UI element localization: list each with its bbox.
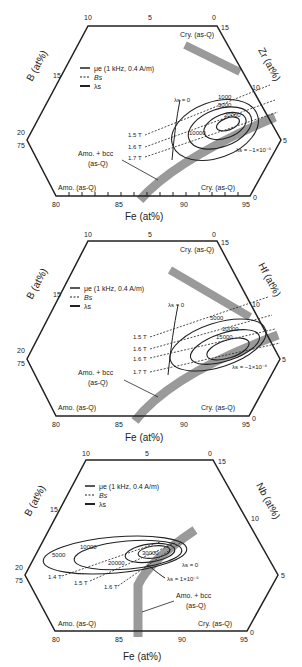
lambda-zero-label: λs = 0 (174, 97, 191, 103)
band-label-line2: (as-Q) (88, 379, 108, 387)
svg-text:1.5 T: 1.5 T (74, 580, 88, 586)
ternary-frame (27, 241, 280, 416)
svg-text:10: 10 (251, 515, 259, 522)
corner-top-label: Cry. (as-Q) (180, 31, 214, 39)
element-axis-title: Zr (at%) (256, 46, 283, 83)
corner-top-label: Cry. (as-Q) (180, 246, 214, 254)
element-axis-title: Hf (at%) (256, 261, 283, 299)
svg-text:15000: 15000 (216, 334, 233, 340)
svg-text:80: 80 (52, 421, 60, 428)
corner-bottom-right-label: Cry. (as-Q) (201, 404, 235, 412)
svg-text:0: 0 (208, 450, 212, 457)
svg-text:75: 75 (17, 360, 25, 367)
band-label-line1: Amo. + bcc (176, 592, 212, 599)
svg-text:1.6 T: 1.6 T (104, 584, 118, 590)
lambda-neg-label: λs = 1×10⁻⁶ (167, 576, 199, 582)
svg-text:95: 95 (242, 421, 250, 428)
panel-fe-b-hf: μe (1 kHz, 0.4 A/m) Bs λs 1.5 T 1.6 T 1.… (0, 225, 302, 445)
bs-labels: 1.4 T 1.5 T 1.6 T (48, 574, 118, 590)
svg-text:5: 5 (283, 137, 287, 144)
svg-text:10: 10 (82, 450, 90, 457)
svg-text:80: 80 (52, 636, 60, 643)
band-label-line1: Amo. + bcc (78, 369, 114, 376)
svg-text:5: 5 (148, 14, 152, 21)
b-axis-title: B (at%) (24, 48, 49, 83)
svg-text:0: 0 (250, 629, 254, 636)
ternary-diagram-nb: μe (1 kHz, 0.4 A/m) Bs λs 1.4 T 1.5 T 1.… (0, 445, 302, 667)
legend: μe (1 kHz, 0.4 A/m) Bs λs (70, 285, 144, 310)
svg-text:20000: 20000 (224, 112, 241, 118)
corner-bottom-right-label: Cry. (as-Q) (198, 620, 232, 628)
svg-text:80: 80 (52, 201, 60, 208)
ternary-diagram-zr: μe (1 kHz, 0.4 A/m) Bs λs 1.5 T 1.6 T 1.… (0, 0, 302, 225)
legend-lambda: λs (94, 83, 102, 90)
legend-lambda: λs (99, 501, 107, 508)
legend: μe (1 kHz, 0.4 A/m) Bs λs (85, 483, 159, 508)
svg-text:1.6 T: 1.6 T (133, 346, 147, 352)
amo-bcc-band (138, 530, 195, 637)
band-pointer (124, 380, 158, 397)
corner-bottom-left-label: Amo. (as-Q) (58, 620, 96, 628)
b-axis-title: B (at%) (22, 483, 47, 518)
svg-text:95: 95 (242, 201, 250, 208)
svg-text:90: 90 (180, 421, 188, 428)
svg-text:20: 20 (15, 564, 23, 571)
svg-text:1000: 1000 (218, 94, 232, 100)
svg-text:5: 5 (148, 231, 152, 238)
svg-text:95: 95 (240, 636, 248, 643)
svg-text:15: 15 (218, 458, 226, 465)
svg-text:1.5 T: 1.5 T (133, 334, 147, 340)
svg-text:75: 75 (15, 577, 23, 584)
corner-bottom-left-label: Amo. (as-Q) (58, 184, 96, 192)
lambda-zero-label: λs = 0 (168, 302, 185, 308)
svg-text:10000: 10000 (222, 326, 239, 332)
svg-text:1.6 T: 1.6 T (128, 144, 142, 150)
svg-text:10000: 10000 (189, 130, 206, 136)
band-label-line2: (as-Q) (186, 602, 206, 610)
svg-text:5: 5 (282, 356, 286, 363)
ternary-diagram-hf: μe (1 kHz, 0.4 A/m) Bs λs 1.5 T 1.6 T 1.… (0, 225, 302, 445)
legend-mu: μe (1 kHz, 0.4 A/m) (99, 483, 159, 491)
legend-bs: Bs (99, 492, 108, 499)
legend-bs: Bs (94, 74, 103, 81)
band-pointer (122, 160, 158, 180)
svg-text:20: 20 (17, 347, 25, 354)
corner-bottom-right-label: Cry. (as-Q) (201, 184, 235, 192)
svg-text:15: 15 (221, 239, 229, 246)
svg-text:10: 10 (252, 84, 260, 91)
svg-text:5000: 5000 (210, 315, 224, 321)
svg-text:20: 20 (17, 129, 25, 136)
band-pointer (142, 601, 174, 612)
lambda-neg-label: λs = −1×10⁻⁶ (232, 364, 268, 370)
svg-text:15: 15 (53, 72, 61, 79)
legend-lambda: λs (84, 303, 92, 310)
svg-text:1.7 T: 1.7 T (133, 369, 147, 375)
svg-text:1.6 T: 1.6 T (133, 356, 147, 362)
svg-text:85: 85 (115, 421, 123, 428)
svg-text:1.7 T: 1.7 T (128, 155, 142, 161)
fe-axis-title: Fe (at%) (125, 211, 163, 222)
svg-text:15: 15 (53, 291, 61, 298)
legend-mu: μe (1 kHz, 0.4 A/m) (84, 285, 144, 293)
band-label-line2: (as-Q) (88, 160, 108, 168)
svg-text:0: 0 (212, 14, 216, 21)
svg-text:10: 10 (84, 231, 92, 238)
lambda-neg-label: λs = −1×10⁻⁶ (236, 147, 272, 153)
bs-labels: 1.5 T 1.6 T 1.6 T 1.7 T (133, 334, 147, 375)
svg-text:1.5 T: 1.5 T (128, 132, 142, 138)
legend: μe (1 kHz, 0.4 A/m) Bs λs (80, 65, 154, 90)
fe-axis-title: Fe (at%) (123, 651, 161, 662)
svg-text:1.4 T: 1.4 T (48, 574, 62, 580)
bs-labels: 1.5 T 1.6 T 1.7 T (128, 132, 142, 161)
svg-text:85: 85 (115, 201, 123, 208)
panel-fe-b-zr: μe (1 kHz, 0.4 A/m) Bs λs 1.5 T 1.6 T 1.… (0, 0, 302, 225)
legend-bs: Bs (84, 294, 93, 301)
svg-text:5: 5 (145, 450, 149, 457)
svg-text:5: 5 (281, 572, 285, 579)
svg-text:90: 90 (180, 201, 188, 208)
svg-text:10: 10 (252, 301, 260, 308)
svg-text:5000: 5000 (52, 552, 66, 558)
svg-text:0: 0 (253, 194, 257, 201)
svg-text:0: 0 (212, 231, 216, 238)
svg-text:10: 10 (84, 14, 92, 21)
